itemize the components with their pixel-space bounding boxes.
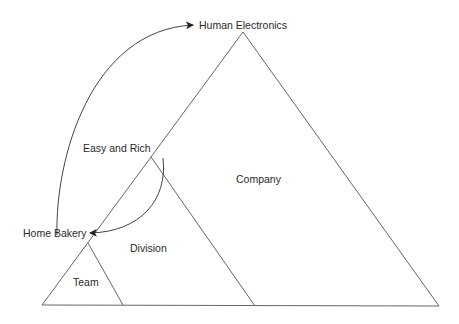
label-division: Division — [130, 243, 167, 254]
label-company: Company — [236, 174, 281, 185]
arrow-home-to-human — [57, 25, 193, 235]
diagram-canvas — [0, 0, 459, 324]
label-team: Team — [73, 277, 99, 288]
team-triangle — [88, 243, 123, 305]
label-human-electronics: Human Electronics — [199, 20, 287, 31]
company-triangle — [42, 32, 439, 306]
arrow-easy-to-home — [90, 158, 164, 233]
label-easy-and-rich: Easy and Rich — [83, 143, 151, 154]
label-home-bakery: Home Bakery — [23, 228, 87, 239]
